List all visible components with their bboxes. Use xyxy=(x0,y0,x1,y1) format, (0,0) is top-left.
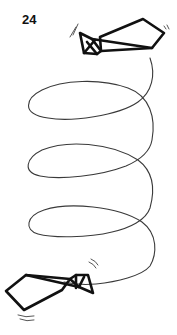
top-motion-lines-right xyxy=(164,25,169,29)
spiral-path xyxy=(28,58,155,284)
bottom-motion-lines-bottom xyxy=(18,315,34,321)
bottom-kite-inner-line xyxy=(79,277,84,287)
top-kite xyxy=(70,19,169,54)
bottom-motion-lines-top xyxy=(89,259,98,268)
bottom-kite xyxy=(6,259,98,321)
top-motion-lines-left xyxy=(70,24,78,37)
bottom-kite-tail-section xyxy=(6,275,70,310)
illustration xyxy=(0,0,177,335)
